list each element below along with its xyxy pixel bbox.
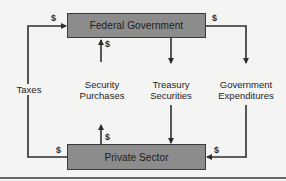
- dollar-sign-security-bottom: $: [105, 133, 110, 142]
- security-purchases-line2: Purchases: [76, 90, 128, 101]
- federal-government-label: Federal Government: [90, 20, 184, 31]
- dollar-sign-security-top: $: [105, 40, 110, 49]
- security-purchases-label: Security Purchases: [76, 79, 128, 101]
- taxes-text: Taxes: [17, 84, 42, 95]
- dollar-sign-taxes-top: $: [51, 14, 56, 23]
- security-purchases-line1: Security: [76, 79, 128, 90]
- bottom-rule: [0, 177, 286, 179]
- dollar-sign-expenditures-top: $: [212, 14, 217, 23]
- private-sector-node: Private Sector: [67, 144, 206, 170]
- government-expenditures-arrow-upper: [206, 26, 246, 63]
- private-sector-label: Private Sector: [104, 152, 168, 163]
- government-expenditures-line1: Government: [214, 79, 278, 90]
- federal-government-node: Federal Government: [67, 13, 206, 38]
- flow-diagram: Federal Government Private Sector Taxes …: [0, 0, 286, 181]
- government-expenditures-line2: Expenditures: [214, 90, 278, 101]
- taxes-label: Taxes: [13, 84, 45, 95]
- dollar-sign-taxes-bottom: $: [56, 146, 61, 155]
- dollar-sign-expenditures-bottom: $: [214, 146, 219, 155]
- treasury-securities-label: Treasury Securities: [146, 79, 196, 101]
- treasury-securities-line1: Treasury: [146, 79, 196, 90]
- government-expenditures-arrow-lower: [207, 105, 246, 157]
- treasury-securities-line2: Securities: [146, 90, 196, 101]
- government-expenditures-label: Government Expenditures: [214, 79, 278, 101]
